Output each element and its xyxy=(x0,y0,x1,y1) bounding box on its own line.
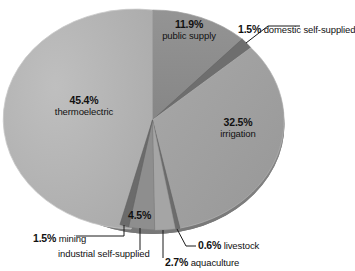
slice-category-public-supply: public supply xyxy=(146,31,232,42)
slice-value-public-supply: 11.9% xyxy=(146,19,232,31)
slice-value-industrial-self-supplied: 4.5% xyxy=(128,205,151,223)
slice-category-thermoelectric: thermoelectric xyxy=(30,107,138,118)
slice-label-public-supply: 11.9% public supply xyxy=(146,19,232,41)
slice-value-domestic-self-supplied: 1.5% xyxy=(238,23,261,35)
slice-category-irrigation: irrigation xyxy=(196,129,280,140)
slice-label-domestic-self-supplied: 1.5% domestic self-supplied xyxy=(238,19,355,37)
pie-chart-figure: 11.9% public supply 45.4% thermoelectric… xyxy=(0,0,355,271)
slice-value-aquaculture: 2.7% xyxy=(165,256,188,268)
slice-label-livestock: 0.6% livestock xyxy=(198,235,259,253)
slice-label-aquaculture: 2.7% aquaculture xyxy=(165,252,239,270)
slice-value-thermoelectric: 45.4% xyxy=(30,95,138,107)
slice-value-irrigation: 32.5% xyxy=(196,117,280,129)
slice-category-domestic-self-supplied: domestic self-supplied xyxy=(261,24,355,35)
slice-category-aquaculture: aquaculture xyxy=(188,257,239,268)
slice-category-mining: mining xyxy=(56,233,86,244)
slice-label-irrigation: 32.5% irrigation xyxy=(196,117,280,139)
slice-value-livestock: 0.6% xyxy=(198,239,221,251)
slice-label-mining: 1.5% mining xyxy=(33,228,86,246)
slice-label-thermoelectric: 45.4% thermoelectric xyxy=(30,95,138,117)
slice-value-mining: 1.5% xyxy=(33,232,56,244)
slice-category-livestock: livestock xyxy=(221,240,259,251)
